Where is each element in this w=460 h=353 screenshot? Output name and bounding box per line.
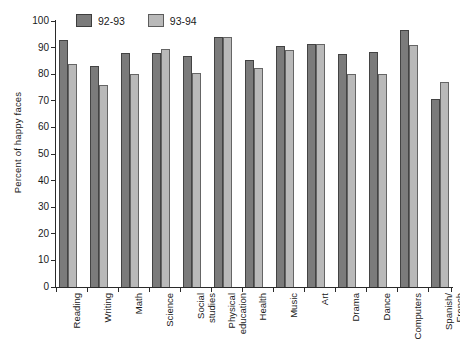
y-tick-label: 50 <box>38 147 49 161</box>
bar-92-93-Reading <box>59 40 68 287</box>
bar-group <box>90 21 108 287</box>
bar-92-93-Drama <box>338 54 347 287</box>
legend-swatch-93-94 <box>148 14 164 27</box>
bar-93-94-Physical-education <box>223 37 232 287</box>
x-label-Health: Health <box>258 293 269 320</box>
bar-chart: Percent of happy faces 01020304050607080… <box>0 0 460 353</box>
bar-93-94-Dance <box>378 74 387 287</box>
bar-93-94-Spanish/-French <box>440 82 449 287</box>
bar-93-94-Reading <box>68 64 77 287</box>
bar-92-93-Spanish/-French <box>431 99 440 287</box>
x-axis-labels: ReadingWritingMathScienceSocial studiesP… <box>56 293 452 353</box>
x-label-Dance: Dance <box>382 293 393 320</box>
y-tick-label: 10 <box>38 253 49 267</box>
bar-group <box>431 21 449 287</box>
bar-93-94-Health <box>254 68 263 287</box>
x-tick-mark <box>304 288 305 292</box>
bar-92-93-Art <box>307 44 316 287</box>
x-tick-mark <box>118 288 119 292</box>
x-label-Science: Science <box>165 293 176 327</box>
x-tick-mark <box>335 288 336 292</box>
x-label-Spanish/-French: Spanish/ French <box>444 293 460 330</box>
x-label-Computers: Computers <box>413 293 424 339</box>
y-tick-label: 80 <box>38 67 49 81</box>
y-tick-label: 30 <box>38 200 49 214</box>
bar-group <box>214 21 232 287</box>
x-tick-mark <box>366 288 367 292</box>
bar-93-94-Writing <box>99 85 108 287</box>
x-tick-mark <box>56 288 57 292</box>
bar-group <box>307 21 325 287</box>
x-label-Writing: Writing <box>103 293 114 322</box>
bar-92-93-Computers <box>400 30 409 287</box>
bar-93-94-Drama <box>347 74 356 287</box>
bar-92-93-Science <box>152 53 161 287</box>
bar-group <box>369 21 387 287</box>
x-tick-mark <box>273 288 274 292</box>
legend-entry-92-93: 92-93 <box>76 14 125 27</box>
bar-group <box>152 21 170 287</box>
bar-group <box>276 21 294 287</box>
x-label-Music: Music <box>289 293 300 318</box>
bar-93-94-Social-studies <box>192 73 201 287</box>
x-tick-mark <box>149 288 150 292</box>
x-label-Math: Math <box>134 293 145 314</box>
bar-93-94-Music <box>285 50 294 287</box>
x-tick-mark <box>451 288 452 292</box>
legend-label-92-93: 92-93 <box>98 15 125 27</box>
bar-93-94-Science <box>161 49 170 287</box>
chart-legend: 92-93 93-94 <box>76 14 197 27</box>
bar-group <box>183 21 201 287</box>
bar-93-94-Math <box>130 74 139 287</box>
legend-label-93-94: 93-94 <box>170 15 197 27</box>
bar-92-93-Physical-education <box>214 37 223 287</box>
bar-group <box>121 21 139 287</box>
x-label-Reading: Reading <box>72 293 83 328</box>
x-tick-mark <box>211 288 212 292</box>
x-tick-mark <box>87 288 88 292</box>
x-label-Art: Art <box>320 293 331 305</box>
bar-group <box>245 21 263 287</box>
x-tick-mark <box>180 288 181 292</box>
y-tick-label: 20 <box>38 227 49 241</box>
x-label-Drama: Drama <box>351 293 362 322</box>
bar-92-93-Dance <box>369 52 378 287</box>
y-tick-label: 40 <box>38 174 49 188</box>
bar-92-93-Writing <box>90 66 99 287</box>
bar-group <box>400 21 418 287</box>
x-tick-mark <box>428 288 429 292</box>
y-tick-label: 70 <box>38 94 49 108</box>
y-tick-label: 0 <box>43 280 49 294</box>
y-tick-label: 60 <box>38 120 49 134</box>
y-axis-title: Percent of happy faces <box>12 58 23 228</box>
y-tick-label: 100 <box>32 14 49 28</box>
bar-group <box>59 21 77 287</box>
bar-92-93-Health <box>245 60 254 287</box>
x-tick-mark <box>242 288 243 292</box>
legend-swatch-92-93 <box>76 14 92 27</box>
x-label-Social-studies: Social studies <box>196 293 217 323</box>
y-tick-label: 90 <box>38 41 49 55</box>
bars-layer <box>56 21 452 287</box>
bar-93-94-Computers <box>409 45 418 287</box>
legend-entry-93-94: 93-94 <box>148 14 197 27</box>
bar-93-94-Art <box>316 44 325 287</box>
x-label-Physical-education: Physical education <box>227 293 248 334</box>
bar-group <box>338 21 356 287</box>
x-tick-mark <box>397 288 398 292</box>
bar-92-93-Math <box>121 53 130 287</box>
plot-area: 0102030405060708090100 <box>56 21 452 287</box>
bar-92-93-Music <box>276 46 285 287</box>
bar-92-93-Social-studies <box>183 56 192 287</box>
